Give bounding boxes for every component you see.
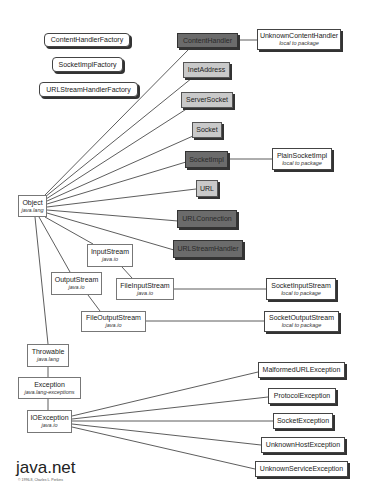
class-socket-impl: SocketImpl: [185, 151, 228, 168]
class-label: UnknownContentHandler: [260, 32, 338, 40]
class-label: URLStreamHandler: [177, 245, 238, 253]
class-malformed-url-exception: MalformedURLException: [258, 362, 345, 378]
package-label: java.lang-exceptions: [24, 389, 74, 396]
package-label: java.io: [102, 256, 118, 263]
class-label: ProtocolException: [274, 392, 330, 400]
factory-content-handler-factory: ContentHandlerFactory: [44, 33, 130, 47]
package-label: local to package: [282, 322, 322, 329]
package-label: local to package: [279, 40, 319, 47]
class-label: Socket: [196, 126, 217, 134]
class-label: InetAddress: [188, 66, 225, 74]
class-label: OutputStream: [55, 276, 99, 284]
class-file-input-stream: FileInputStream java.io: [116, 278, 174, 300]
class-label: ServerSocket: [186, 96, 228, 104]
class-socket: Socket: [192, 122, 222, 138]
class-label: IOException: [30, 414, 68, 422]
class-label: UnknownServiceException: [260, 465, 343, 473]
class-label: SocketImplFactory: [59, 61, 117, 69]
factory-socket-impl-factory: SocketImplFactory: [52, 57, 123, 72]
copyright-notice: © 1996-8, Charles L. Perkins: [18, 478, 63, 482]
class-label: URLConnection: [182, 215, 231, 223]
class-label: ContentHandler: [183, 37, 232, 45]
class-socket-exception: SocketException: [273, 413, 333, 429]
class-object: Object java.lang: [18, 195, 47, 217]
class-socket-output-stream: SocketOutputStream local to package: [264, 311, 339, 332]
class-unknown-host-exception: UnknownHostException: [261, 437, 345, 453]
class-label: Exception: [34, 381, 65, 389]
class-protocol-exception: ProtocolException: [268, 388, 336, 404]
class-inet-address: InetAddress: [183, 62, 230, 78]
class-label: SocketOutputStream: [269, 314, 334, 322]
class-unknown-content-handler: UnknownContentHandler local to package: [257, 29, 341, 50]
class-output-stream: OutputStream java.io: [51, 272, 102, 295]
class-label: URLStreamHandlerFactory: [46, 86, 130, 94]
class-socket-input-stream: SocketInputStream local to package: [266, 278, 336, 300]
class-label: FileOutputStream: [86, 314, 141, 322]
package-label: local to package: [281, 290, 321, 297]
class-label: SocketException: [277, 417, 329, 425]
class-plain-socket-impl: PlainSocketImpl local to package: [272, 148, 332, 170]
package-label: java.lang: [21, 207, 43, 214]
class-url-stream-handler: URLStreamHandler: [173, 240, 243, 258]
class-throwable: Throwable java.lang: [27, 344, 69, 367]
class-label: InputStream: [91, 248, 129, 256]
class-label: PlainSocketImpl: [277, 152, 327, 160]
class-unknown-service-exception: UnknownServiceException: [255, 461, 348, 477]
package-label: java.io: [42, 422, 58, 429]
package-label: java.io: [106, 322, 122, 329]
class-label: URL: [200, 185, 214, 193]
class-url: URL: [196, 180, 218, 197]
package-label: java.lang: [37, 356, 59, 363]
class-content-handler: ContentHandler: [177, 33, 238, 48]
class-exception: Exception java.lang-exceptions: [18, 377, 81, 399]
class-url-connection: URLConnection: [177, 210, 237, 228]
class-label: FileInputStream: [120, 282, 169, 290]
class-label: SocketInputStream: [271, 282, 331, 290]
class-server-socket: ServerSocket: [181, 92, 233, 108]
class-label: Object: [22, 199, 42, 207]
class-label: SocketImpl: [189, 156, 224, 164]
package-label: local to package: [282, 160, 322, 167]
diagram-title: java.net: [16, 459, 76, 477]
class-io-exception: IOException java.io: [27, 410, 72, 433]
class-input-stream: InputStream java.io: [87, 244, 133, 267]
class-label: MalformedURLException: [263, 366, 341, 374]
class-label: UnknownHostException: [266, 441, 340, 449]
class-label: ContentHandlerFactory: [51, 36, 123, 44]
package-label: java.io: [137, 290, 153, 297]
class-file-output-stream: FileOutputStream java.io: [81, 311, 146, 332]
package-label: java.io: [69, 284, 85, 291]
class-label: Throwable: [32, 348, 65, 356]
factory-url-stream-handler-factory: URLStreamHandlerFactory: [39, 82, 138, 97]
